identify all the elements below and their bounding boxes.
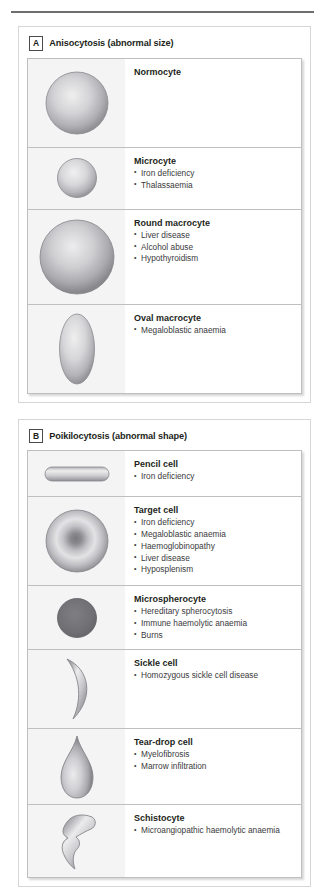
- microspherocyte-illustration: [28, 586, 125, 649]
- cell-bullets: Microangiopathic haemolytic anaemia: [134, 825, 295, 837]
- table-row: Microspherocyte Hereditary spherocytosis…: [28, 586, 301, 650]
- schistocyte-text: Schistocyte Microangiopathic haemolytic …: [125, 805, 301, 877]
- oval-macrocyte-text: Oval macrocyte Megaloblastic anaemia: [125, 305, 301, 393]
- bullet-item: Iron deficiency: [134, 471, 295, 483]
- cell-name: Tear-drop cell: [134, 737, 295, 748]
- bullet-item: Liver disease: [134, 553, 295, 565]
- panel-b-title: Poikilocytosis (abnormal shape): [49, 431, 187, 441]
- cell-bullets: Homozygous sickle cell disease: [134, 670, 295, 682]
- schistocyte-illustration: [28, 805, 125, 877]
- cell-name: Microspherocyte: [134, 594, 295, 605]
- table-row: Normocyte: [28, 59, 301, 148]
- bullet-item: Megaloblastic anaemia: [134, 325, 295, 337]
- microspherocyte-text: Microspherocyte Hereditary spherocytosis…: [125, 586, 301, 649]
- pencil-cell-text: Pencil cell Iron deficiency: [125, 451, 301, 496]
- panel-a-rows: Normocyte: [27, 58, 302, 394]
- cell-bullets: Megaloblastic anaemia: [134, 325, 295, 337]
- bullet-item: Megaloblastic anaemia: [134, 529, 295, 541]
- table-row: Schistocyte Microangiopathic haemolytic …: [28, 805, 301, 877]
- cell-bullets: Myelofibrosis Marrow infiltration: [134, 749, 295, 773]
- table-row: Pencil cell Iron deficiency: [28, 451, 301, 497]
- oval-macrocyte-illustration: [28, 305, 125, 393]
- table-row: Oval macrocyte Megaloblastic anaemia: [28, 305, 301, 393]
- table-row: Target cell Iron deficiency Megaloblasti…: [28, 497, 301, 586]
- bullet-item: Thalassaemia: [134, 180, 295, 192]
- pencil-cell-illustration: [28, 451, 125, 496]
- bullet-item: Alcohol abuse: [134, 242, 295, 254]
- normocyte-text: Normocyte: [125, 59, 301, 147]
- cell-name: Normocyte: [134, 67, 295, 78]
- round-macrocyte-text: Round macrocyte Liver disease Alcohol ab…: [125, 210, 301, 304]
- cell-name: Pencil cell: [134, 459, 295, 470]
- bullet-item: Hereditary spherocytosis: [134, 606, 295, 618]
- panel-b-rows: Pencil cell Iron deficiency: [27, 450, 302, 878]
- table-row: Sickle cell Homozygous sickle cell disea…: [28, 650, 301, 729]
- normocyte-illustration: [28, 59, 125, 147]
- panel-a-header: A Anisocytosis (abnormal size): [27, 36, 302, 58]
- cell-bullets: Iron deficiency: [134, 471, 295, 483]
- microcyte-illustration: [28, 148, 125, 209]
- bullet-item: Marrow infiltration: [134, 761, 295, 773]
- bullet-item: Iron deficiency: [134, 168, 295, 180]
- bullet-item: Hyposplenism: [134, 564, 295, 576]
- table-row: Round macrocyte Liver disease Alcohol ab…: [28, 210, 301, 305]
- sickle-cell-illustration: [28, 650, 125, 728]
- figure-content: A Anisocytosis (abnormal size): [0, 26, 325, 887]
- cell-bullets: Iron deficiency Megaloblastic anaemia Ha…: [134, 517, 295, 576]
- bullet-item: Immune haemolytic anaemia: [134, 618, 295, 630]
- target-cell-illustration: [28, 497, 125, 585]
- bullet-item: Haemoglobinopathy: [134, 541, 295, 553]
- microcyte-text: Microcyte Iron deficiency Thalassaemia: [125, 148, 301, 209]
- cell-name: Sickle cell: [134, 658, 295, 669]
- table-row: Microcyte Iron deficiency Thalassaemia: [28, 148, 301, 210]
- cell-bullets: Iron deficiency Thalassaemia: [134, 168, 295, 192]
- tear-drop-cell-illustration: [28, 729, 125, 804]
- target-cell-text: Target cell Iron deficiency Megaloblasti…: [125, 497, 301, 585]
- cell-bullets: Hereditary spherocytosis Immune haemolyt…: [134, 606, 295, 641]
- panel-b-letter: B: [29, 429, 43, 444]
- bullet-item: Hypothyroidism: [134, 253, 295, 265]
- bullet-item: Burns: [134, 630, 295, 642]
- table-row: Tear-drop cell Myelofibrosis Marrow infi…: [28, 729, 301, 805]
- round-macrocyte-illustration: [28, 210, 125, 304]
- cell-name: Target cell: [134, 505, 295, 516]
- cell-name: Schistocyte: [134, 813, 295, 824]
- bullet-item: Homozygous sickle cell disease: [134, 670, 295, 682]
- sickle-cell-text: Sickle cell Homozygous sickle cell disea…: [125, 650, 301, 728]
- bullet-item: Myelofibrosis: [134, 749, 295, 761]
- bullet-item: Iron deficiency: [134, 517, 295, 529]
- cell-bullets: Liver disease Alcohol abuse Hypothyroidi…: [134, 230, 295, 265]
- bullet-item: Liver disease: [134, 230, 295, 242]
- panel-b: B Poikilocytosis (abnormal shape): [18, 419, 311, 887]
- panel-a: A Anisocytosis (abnormal size): [18, 26, 311, 403]
- panel-a-letter: A: [29, 36, 43, 51]
- tear-drop-cell-text: Tear-drop cell Myelofibrosis Marrow infi…: [125, 729, 301, 804]
- cell-name: Microcyte: [134, 156, 295, 167]
- panel-a-title: Anisocytosis (abnormal size): [49, 38, 173, 48]
- cell-name: Oval macrocyte: [134, 313, 295, 324]
- cell-name: Round macrocyte: [134, 218, 295, 229]
- header-divider: [11, 11, 314, 13]
- bullet-item: Microangiopathic haemolytic anaemia: [134, 825, 295, 837]
- panel-b-header: B Poikilocytosis (abnormal shape): [27, 429, 302, 451]
